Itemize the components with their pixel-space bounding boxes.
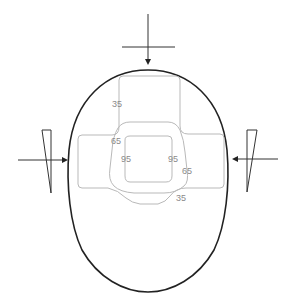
contour-35 bbox=[78, 76, 224, 204]
head-pressure-diagram: 35 65 95 95 65 35 bbox=[0, 0, 294, 303]
right-force-arrow-icon bbox=[232, 156, 278, 162]
contour-label-35-bottom: 35 bbox=[176, 193, 186, 203]
contour-label-95-left: 95 bbox=[121, 154, 131, 164]
head-outline bbox=[68, 70, 228, 292]
contour-95 bbox=[125, 136, 172, 182]
contour-label-65-right: 65 bbox=[182, 166, 192, 176]
top-force-arrow-icon bbox=[122, 14, 175, 65]
left-force-arrow-icon bbox=[18, 157, 68, 163]
contour-label-95-right: 95 bbox=[168, 154, 178, 164]
contour-label-35-top: 35 bbox=[112, 99, 122, 109]
right-wedge-icon bbox=[247, 130, 257, 192]
contour-label-65-left: 65 bbox=[111, 136, 121, 146]
left-wedge-icon bbox=[42, 130, 51, 193]
